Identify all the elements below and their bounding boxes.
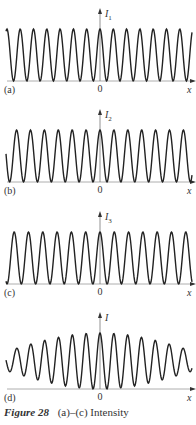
panel-a: (a)0xI1 (4, 8, 196, 96)
figure-caption: Figure 28 (a)–(c) Intensity (4, 406, 129, 418)
x-axis-arrow-icon (190, 387, 196, 391)
panel-label: (b) (4, 185, 16, 197)
x-axis-label: x (186, 185, 192, 196)
figure-canvas: (a)0xI1(b)0xI2(c)0xI3(d)0xI (0, 0, 196, 425)
y-axis-label: I3 (104, 211, 112, 225)
intensity-curve (6, 130, 192, 182)
y-axis-arrow-icon (98, 8, 102, 14)
y-axis-label: I1 (104, 8, 112, 22)
panel-label: (c) (4, 287, 15, 299)
x-axis-label: x (186, 287, 192, 298)
panel-label: (a) (4, 84, 15, 96)
y-axis-label: I (104, 312, 109, 323)
x-axis-arrow-icon (190, 79, 196, 83)
origin-label: 0 (98, 286, 103, 297)
origin-label: 0 (98, 391, 103, 402)
y-axis-label: I2 (104, 109, 112, 123)
panel-c: (c)0xI3 (4, 211, 196, 299)
panel-d: (d)0xI (4, 312, 196, 404)
x-axis-label: x (186, 84, 192, 95)
intensity-curve (6, 333, 192, 389)
x-axis-label: x (186, 392, 192, 403)
intensity-curve (6, 232, 192, 284)
x-axis-arrow-icon (190, 282, 196, 286)
caption-number: Figure 28 (4, 406, 49, 418)
panel-b: (b)0xI2 (4, 109, 196, 197)
panel-label: (d) (4, 392, 16, 404)
origin-label: 0 (98, 83, 103, 94)
y-axis-arrow-icon (98, 312, 102, 318)
y-axis-arrow-icon (98, 109, 102, 115)
y-axis-arrow-icon (98, 211, 102, 217)
origin-label: 0 (98, 184, 103, 195)
intensity-curve (6, 29, 192, 81)
caption-text: (a)–(c) Intensity (58, 406, 129, 418)
